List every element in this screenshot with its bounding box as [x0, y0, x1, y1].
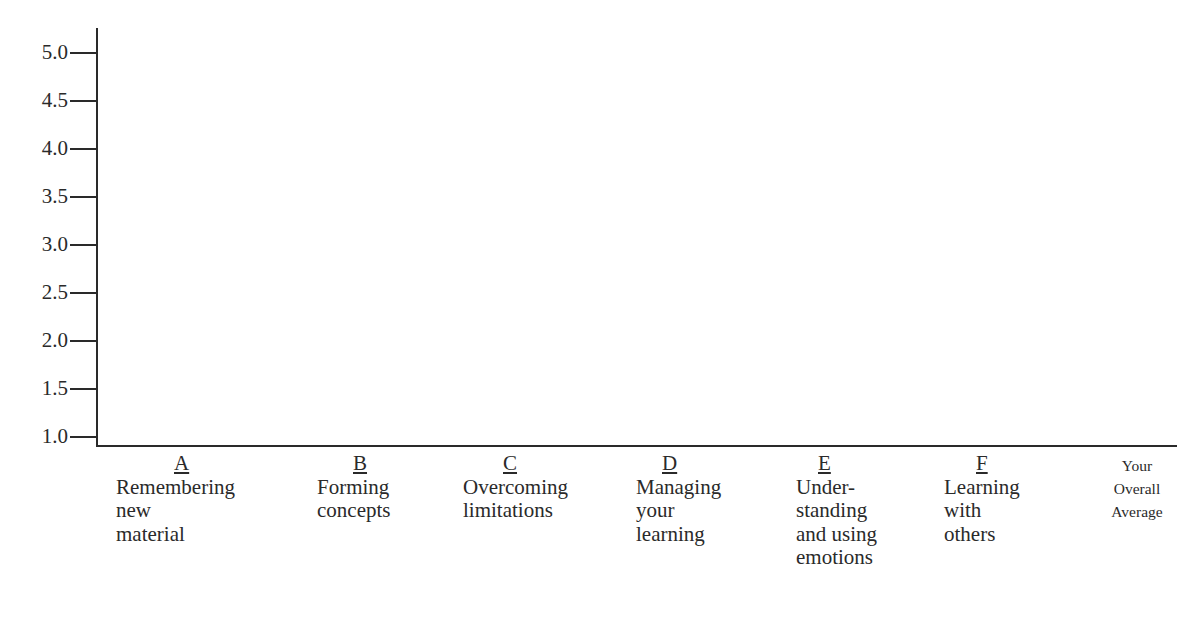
category-label: Forming concepts: [317, 476, 390, 523]
tick-3.5: [70, 196, 96, 198]
y-tick-label: 3.0: [26, 233, 68, 255]
category-letter: E: [796, 452, 877, 476]
x-axis: [96, 445, 1177, 447]
y-tick-label: 2.5: [26, 281, 68, 303]
category-label: Overcoming limitations: [463, 476, 568, 523]
y-tick-label: 3.5: [26, 185, 68, 207]
tick-5.0: [70, 52, 96, 54]
category-label: Managing your learning: [636, 476, 721, 547]
tick-4.5: [70, 100, 96, 102]
tick-1.5: [70, 388, 96, 390]
category-letter: C: [463, 452, 568, 476]
y-tick-label: 4.0: [26, 137, 68, 159]
tick-3.0: [70, 244, 96, 246]
y-tick-label: 5.0: [26, 41, 68, 63]
y-axis: [96, 28, 98, 447]
category-a: A Remembering new material: [116, 452, 235, 546]
y-tick-label: 2.0: [26, 329, 68, 351]
y-tick-label: 1.5: [26, 377, 68, 399]
category-d: D Managing your learning: [636, 452, 721, 546]
tick-2.5: [70, 292, 96, 294]
category-letter: F: [944, 452, 1020, 476]
category-b: B Forming concepts: [317, 452, 390, 523]
category-letter: B: [317, 452, 390, 476]
category-label: Remembering new material: [116, 476, 235, 547]
category-letter: A: [116, 452, 235, 476]
category-label: Under- standing and using emotions: [796, 476, 877, 570]
category-e: E Under- standing and using emotions: [796, 452, 877, 570]
tick-4.0: [70, 148, 96, 150]
y-tick-label: 1.0: [26, 425, 68, 447]
y-tick-label: 4.5: [26, 89, 68, 111]
overall-average-label: Your Overall Average: [1095, 454, 1179, 523]
category-f: F Learning with others: [944, 452, 1020, 546]
category-label: Learning with others: [944, 476, 1020, 547]
category-letter: D: [636, 452, 721, 476]
tick-2.0: [70, 340, 96, 342]
tick-1.0: [70, 436, 96, 438]
category-c: C Overcoming limitations: [463, 452, 568, 523]
